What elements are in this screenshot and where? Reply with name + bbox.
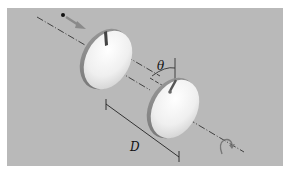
disk-1 — [70, 20, 142, 98]
diagram-svg — [0, 0, 288, 173]
rotation-arrow-icon — [220, 140, 235, 155]
particle-dot — [61, 13, 65, 17]
distance-label: D — [130, 140, 140, 154]
theta-label: θ — [157, 59, 164, 73]
axis-line — [37, 17, 244, 152]
incoming-arrow-icon — [66, 17, 86, 29]
disk-2 — [137, 69, 209, 147]
